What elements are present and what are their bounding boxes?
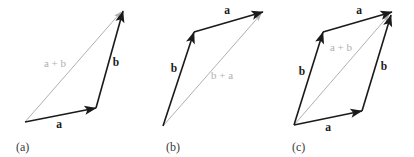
figure-canvas: aba + b(a)bab + a(b)baaba + b(c) [0, 0, 414, 157]
label-vector-a-plus-b: a + b [330, 41, 353, 53]
label-vector-a-top: a [356, 4, 362, 16]
label-vector-a-bottom: a [325, 121, 331, 133]
label-vector-a-plus-b: a + b [44, 57, 67, 69]
panel-a: aba + b(a) [16, 11, 123, 154]
panel-caption-c: (c) [292, 140, 305, 154]
panel-caption-a: (a) [16, 140, 29, 154]
arrow-vector-b-left [294, 32, 323, 125]
label-vector-b: b [171, 62, 177, 74]
label-vector-a: a [56, 118, 62, 130]
label-vector-b-left: b [299, 65, 305, 77]
label-vector-a: a [224, 4, 230, 16]
panel-c: baaba + b(c) [292, 4, 392, 154]
vector-addition-figure: aba + b(a)bab + a(b)baaba + b(c) [0, 0, 414, 157]
arrow-vector-b [163, 32, 194, 126]
label-vector-b-right: b [381, 60, 387, 72]
panels-root: aba + b(a)bab + a(b)baaba + b(c) [16, 4, 392, 154]
label-vector-b: b [113, 56, 119, 68]
panel-b: bab + a(b) [163, 4, 263, 154]
panel-caption-b: (b) [166, 140, 180, 154]
label-vector-b-plus-a: b + a [211, 69, 233, 81]
